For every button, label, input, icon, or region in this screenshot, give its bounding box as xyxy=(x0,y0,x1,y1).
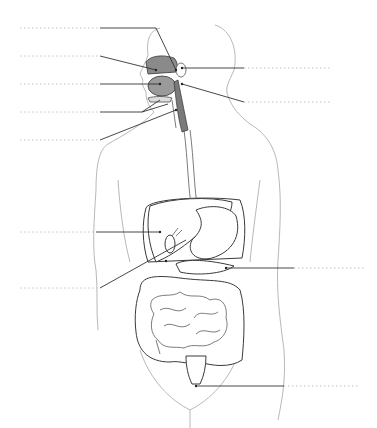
abdomen-organs xyxy=(143,198,245,274)
digestive-system-diagram xyxy=(0,0,377,428)
gallbladder xyxy=(165,235,175,253)
tongue xyxy=(148,76,176,96)
jaw xyxy=(148,97,172,103)
intestines xyxy=(135,277,244,385)
salivary-gland-parotid xyxy=(176,63,186,77)
rectum xyxy=(186,356,206,384)
nasal-cavity xyxy=(146,56,177,74)
pharynx xyxy=(174,80,188,132)
